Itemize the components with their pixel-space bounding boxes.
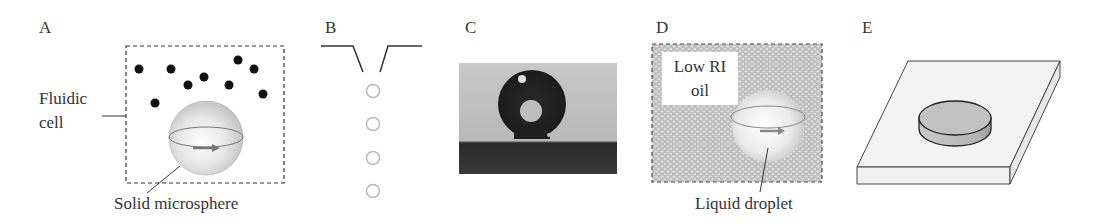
panel-letter-a: A [39,18,51,38]
solid-microsphere [169,101,243,175]
figure-graphics [0,0,1103,224]
analyte-particles [135,56,268,108]
liquid-droplet-label: Liquid droplet [695,193,793,215]
panel-letter-c: C [465,18,476,38]
low-ri-oil-label-line2: oil [662,79,738,103]
panel-letter-b: B [325,18,336,38]
fluidic-cell-label-line2: cell [39,112,64,134]
solid-microsphere-label: Solid microsphere [114,193,238,215]
panel-letter-e: E [862,18,872,38]
low-ri-oil-label: Low RI oil [662,52,738,105]
fluidic-cell-label-line1: Fluidic [39,88,87,110]
panel-c-photo [459,63,617,174]
disc-sample [919,101,991,146]
panel-b-graphic [321,46,422,198]
panel-e-graphic [857,61,1060,184]
panel-letter-d: D [656,18,668,38]
low-ri-oil-label-line1: Low RI [662,55,738,79]
panel-a-graphic [102,46,284,193]
droplet-train [367,85,380,198]
